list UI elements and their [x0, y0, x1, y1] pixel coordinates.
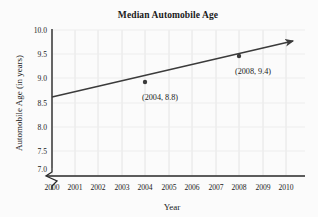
y-axis-title: Automobile Age (in years): [14, 55, 24, 151]
median-automobile-age-line-chart: Median Automobile Age Automobile Age (in…: [0, 0, 318, 217]
x-tick-label: 2001: [67, 183, 82, 192]
y-tick-label: 9.5: [38, 50, 48, 59]
y-tick-label: 10.0: [34, 26, 47, 35]
y-tick-label: 8.0: [38, 123, 48, 132]
x-tick-label: 2004: [137, 183, 152, 192]
annotation-2008: (2008, 9.4): [235, 67, 271, 76]
x-tick-label: 2010: [278, 183, 293, 192]
x-tick-label: 2005: [161, 183, 176, 192]
chart-title: Median Automobile Age: [118, 10, 218, 20]
x-axis-title: Year: [164, 202, 181, 212]
data-point-2004: [143, 80, 147, 84]
x-tick-label: 2003: [114, 183, 129, 192]
x-tick-label: 2000: [44, 183, 59, 192]
x-tick-label: 2006: [184, 183, 199, 192]
chart-figure: Median Automobile Age Automobile Age (in…: [0, 0, 318, 217]
y-tick-label: 7.5: [38, 147, 48, 156]
x-tick-label: 2009: [255, 183, 270, 192]
y-tick-label: 8.5: [38, 99, 48, 108]
y-tick-label: 9.0: [38, 74, 48, 83]
y-tick-label: 7.0: [38, 165, 48, 174]
data-point-2008: [237, 54, 241, 58]
x-tick-label: 2008: [231, 183, 246, 192]
x-tick-label: 2002: [90, 183, 105, 192]
annotation-2004: (2004, 8.8): [142, 93, 178, 102]
x-tick-labels: 2000 2001 2002 2003 2004 2005 2006 2007 …: [44, 183, 293, 192]
x-tick-label: 2007: [208, 183, 223, 192]
